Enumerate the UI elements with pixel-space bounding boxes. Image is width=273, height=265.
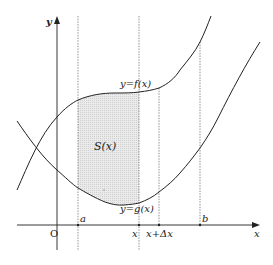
tick-x-plus-dx bbox=[158, 224, 160, 226]
curve-f-label: y=f(x) bbox=[120, 79, 151, 89]
tick-x bbox=[138, 224, 140, 226]
marker-a-label: a bbox=[80, 214, 86, 224]
y-axis-arrow-icon bbox=[54, 16, 60, 24]
tick-b bbox=[199, 224, 201, 226]
marker-x-plus-dx-label: x+Δx bbox=[146, 229, 173, 239]
marker-b-label: b bbox=[202, 214, 208, 224]
curve-g-label: y=g(x) bbox=[120, 204, 154, 214]
region-label: S(x) bbox=[94, 141, 116, 152]
center-dot bbox=[103, 189, 104, 190]
tick-a bbox=[77, 224, 79, 226]
diagram-canvas bbox=[0, 0, 273, 265]
y-axis-label: y bbox=[46, 17, 52, 27]
area-between-curves-diagram: y x O y=f(x) y=g(x) S(x) a x x+Δx b bbox=[0, 0, 273, 265]
origin-label: O bbox=[50, 229, 58, 239]
x-axis-label: x bbox=[254, 229, 260, 239]
marker-x-label: x bbox=[132, 229, 138, 239]
